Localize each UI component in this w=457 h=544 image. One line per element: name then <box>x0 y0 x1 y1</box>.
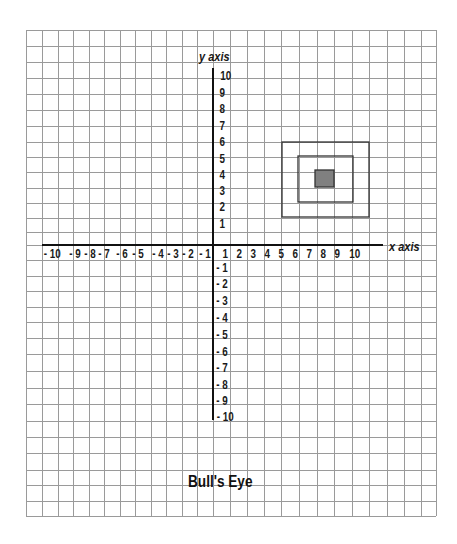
x-tick-label: 8 <box>321 248 326 260</box>
y-tick-label: - 3 <box>216 295 227 307</box>
y-tick-label: - 10 <box>217 411 234 423</box>
x-tick-label: - 7 <box>98 248 109 260</box>
y-tick-label: - 2 <box>216 278 227 290</box>
x-axis-title-text: x axis <box>389 239 420 254</box>
shapes <box>282 142 369 217</box>
y-tick-label: 8 <box>220 103 225 115</box>
grid-lines <box>26 30 437 517</box>
y-tick-label: 6 <box>220 136 225 148</box>
x-axis-title: x axis <box>389 240 420 253</box>
y-tick-label: - 8 <box>216 379 227 391</box>
y-tick-label: 5 <box>220 153 225 165</box>
x-tick-label: - 3 <box>167 248 178 260</box>
x-tick-label: 2 <box>237 248 242 260</box>
x-tick-label: 4 <box>265 248 270 260</box>
y-tick-label: - 4 <box>216 312 227 324</box>
y-axis-title: y axis <box>199 50 230 63</box>
y-tick-label: - 6 <box>216 346 227 358</box>
y-tick-label: 9 <box>220 87 225 99</box>
x-tick-label: 5 <box>279 248 284 260</box>
y-tick-label: - 5 <box>216 329 227 341</box>
y-tick-label: - 1 <box>216 262 227 274</box>
x-tick-label: - 2 <box>182 248 193 260</box>
y-tick-label: 7 <box>220 120 225 132</box>
x-tick-label: - 9 <box>69 248 80 260</box>
x-tick-label: - 4 <box>152 248 163 260</box>
worksheet-title: Bull's Eye <box>188 473 252 491</box>
y-tick-label: - 9 <box>216 395 227 407</box>
x-tick-label: 7 <box>307 248 312 260</box>
x-tick-label: 3 <box>251 248 256 260</box>
x-tick-label: 10 <box>349 248 360 260</box>
x-tick-label: - 1 <box>199 248 210 260</box>
x-tick-label: 1 <box>223 248 228 260</box>
x-tick-label: - 8 <box>84 248 95 260</box>
y-tick-label: 4 <box>220 169 225 181</box>
y-tick-label: - 7 <box>216 362 227 374</box>
y-tick-label: 1 <box>220 218 225 230</box>
x-tick-label: - 10 <box>44 248 61 260</box>
x-tick-label: 9 <box>335 248 340 260</box>
x-tick-label: 6 <box>293 248 298 260</box>
bullseye-center-square <box>315 170 334 187</box>
coordinate-plane-worksheet: - 10- 9- 8- 7- 6- 5- 4- 3- 2- 1123456789… <box>0 0 457 544</box>
y-tick-label: 3 <box>220 185 225 197</box>
x-tick-label: - 6 <box>116 248 127 260</box>
y-tick-label: 2 <box>220 201 225 213</box>
y-axis-title-text: y axis <box>199 49 230 64</box>
x-tick-label: - 5 <box>132 248 143 260</box>
y-tick-label: 10 <box>220 70 231 82</box>
